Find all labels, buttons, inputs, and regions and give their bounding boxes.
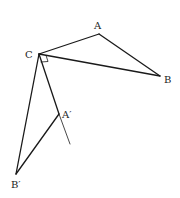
label-a: A	[93, 20, 102, 31]
segment-ca	[39, 34, 99, 54]
segment-cb-prime	[16, 54, 39, 174]
segment-cb	[39, 54, 160, 76]
segment-b-prime-a-prime	[16, 114, 59, 174]
segment-ca-prime	[39, 54, 59, 114]
right-angle-mark	[41, 55, 48, 62]
label-a-prime: A′	[61, 109, 72, 120]
label-c: C	[25, 49, 33, 60]
geometry-diagram: A B C A′ B′	[0, 0, 180, 198]
segment-ab	[99, 34, 160, 76]
label-b: B	[164, 74, 171, 85]
label-b-prime: B′	[11, 179, 21, 190]
